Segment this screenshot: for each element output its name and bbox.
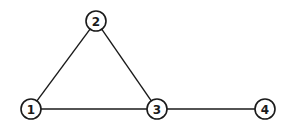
nodes-group: 1234	[21, 11, 275, 119]
graph-diagram: 1234	[0, 0, 294, 132]
node-label: 1	[27, 103, 35, 117]
node-label: 3	[153, 103, 161, 117]
edges-group	[37, 29, 255, 109]
node-label: 4	[261, 103, 269, 117]
node-label: 2	[92, 15, 100, 29]
node-1: 1	[21, 99, 41, 119]
node-2: 2	[86, 11, 106, 31]
edge-2-3	[102, 29, 152, 101]
edge-1-2	[37, 29, 90, 101]
node-4: 4	[255, 99, 275, 119]
node-3: 3	[147, 99, 167, 119]
